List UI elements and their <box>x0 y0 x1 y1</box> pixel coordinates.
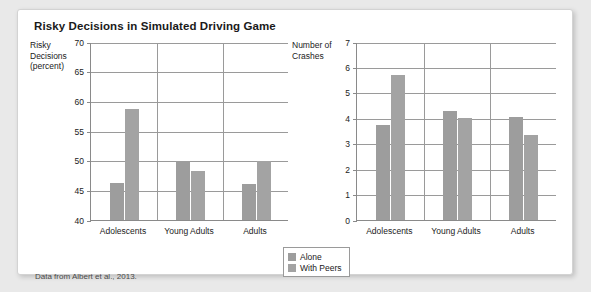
y-tick-mark <box>353 195 357 196</box>
gridline <box>357 43 556 44</box>
plot-area-left <box>90 43 288 221</box>
bar-adults-with-peers <box>257 161 271 220</box>
legend-item-with-peers: With Peers <box>288 262 342 273</box>
legend-swatch-with-peers <box>288 264 296 272</box>
y-tick-label: 5 <box>322 88 350 98</box>
legend-item-alone: Alone <box>288 251 342 262</box>
y-tick-label: 4 <box>322 114 350 124</box>
y-tick-label: 0 <box>322 216 350 226</box>
x-axis-label: Adults <box>222 226 288 236</box>
category-divider <box>157 43 158 220</box>
gridline <box>91 72 288 73</box>
legend-label-with-peers: With Peers <box>300 263 342 273</box>
category-divider <box>424 43 425 220</box>
chart-panel-number-of-crashes: Number of Crashes 01234567AdolescentsYou… <box>290 38 566 238</box>
y-tick-mark <box>87 221 91 222</box>
y-tick-mark <box>353 170 357 171</box>
plot-area-right <box>356 43 556 221</box>
gridline <box>91 132 288 133</box>
y-tick-mark <box>87 161 91 162</box>
category-divider <box>490 43 491 220</box>
bar-young-adults-with-peers <box>458 118 472 220</box>
bar-young-adults-alone <box>176 161 190 220</box>
y-tick-mark <box>87 72 91 73</box>
gridline <box>357 93 556 94</box>
chart-panel-risky-decisions: Risky Decisions (percent) 40455055606570… <box>28 38 298 238</box>
figure-card: Risky Decisions in Simulated Driving Gam… <box>17 9 573 275</box>
bar-adults-alone <box>242 184 256 220</box>
bar-adults-with-peers <box>524 135 538 220</box>
y-tick-label: 1 <box>322 190 350 200</box>
y-tick-label: 60 <box>56 97 84 107</box>
y-tick-mark <box>87 191 91 192</box>
bar-adolescents-alone <box>110 183 124 220</box>
gridline <box>357 119 556 120</box>
y-tick-label: 7 <box>322 38 350 48</box>
legend: Alone With Peers <box>283 247 350 277</box>
y-tick-mark <box>87 132 91 133</box>
y-tick-label: 2 <box>322 165 350 175</box>
legend-swatch-alone <box>288 253 296 261</box>
y-tick-mark <box>87 102 91 103</box>
y-tick-label: 40 <box>56 216 84 226</box>
x-axis-label: Adolescents <box>90 226 156 236</box>
x-axis-label: Young Adults <box>156 226 222 236</box>
y-tick-label: 50 <box>56 156 84 166</box>
y-tick-mark <box>353 68 357 69</box>
bar-adults-alone <box>509 117 523 220</box>
y-tick-mark <box>87 43 91 44</box>
y-tick-mark <box>353 119 357 120</box>
y-tick-mark <box>353 93 357 94</box>
x-axis-label: Adults <box>489 226 556 236</box>
y-tick-label: 6 <box>322 63 350 73</box>
y-tick-mark <box>353 221 357 222</box>
page-title: Risky Decisions in Simulated Driving Gam… <box>34 20 276 32</box>
bar-young-adults-with-peers <box>191 171 205 220</box>
bar-adolescents-with-peers <box>391 75 405 220</box>
gridline <box>91 102 288 103</box>
y-tick-label: 3 <box>322 139 350 149</box>
category-divider <box>223 43 224 220</box>
bar-adolescents-alone <box>376 125 390 220</box>
bar-young-adults-alone <box>443 111 457 220</box>
bar-adolescents-with-peers <box>125 109 139 220</box>
x-axis-label: Adolescents <box>356 226 423 236</box>
y-tick-label: 55 <box>56 127 84 137</box>
x-axis-label: Young Adults <box>423 226 490 236</box>
y-tick-label: 70 <box>56 38 84 48</box>
y-tick-mark <box>353 43 357 44</box>
legend-label-alone: Alone <box>300 252 322 262</box>
y-tick-label: 45 <box>56 186 84 196</box>
y-tick-mark <box>353 144 357 145</box>
y-tick-label: 65 <box>56 67 84 77</box>
gridline <box>357 68 556 69</box>
source-note: Data from Albert et al., 2013. <box>35 272 137 281</box>
gridline <box>91 43 288 44</box>
